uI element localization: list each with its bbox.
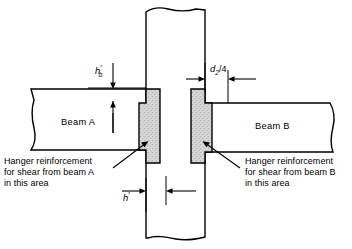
figure-container: Beam A Beam B Hanger reinforcement for s…	[0, 0, 352, 249]
beam-a-label: Beam A	[61, 117, 96, 127]
dimension-label-d2-over-4: d2/4	[210, 63, 226, 76]
note-right-line1: Hanger reinforcement	[245, 156, 333, 166]
svg-text:h′b: h′b	[95, 63, 103, 78]
note-left-line2: for shear from beam A	[4, 167, 94, 177]
svg-text:h′: h′	[123, 190, 130, 203]
hb-subscript: b	[99, 71, 103, 78]
beam-b-label: Beam B	[255, 121, 290, 131]
dimension-label-hb: h′b	[95, 63, 103, 78]
beam-column-joint-diagram: Beam A Beam B Hanger reinforcement for s…	[0, 0, 352, 249]
note-right: Hanger reinforcement for shear from beam…	[245, 156, 336, 188]
hanger-zone-beam-b	[191, 89, 212, 163]
note-right-line2: for shear from beam B	[245, 167, 336, 177]
note-left: Hanger reinforcement for shear from beam…	[4, 156, 94, 188]
note-right-line3: in this area	[245, 178, 290, 188]
svg-text:d2/4: d2/4	[210, 63, 226, 76]
note-left-line3: in this area	[4, 178, 49, 188]
d2-divisor: /4	[219, 64, 227, 74]
note-left-line1: Hanger reinforcement	[4, 156, 92, 166]
dimension-label-h-prime: h′	[123, 190, 130, 203]
